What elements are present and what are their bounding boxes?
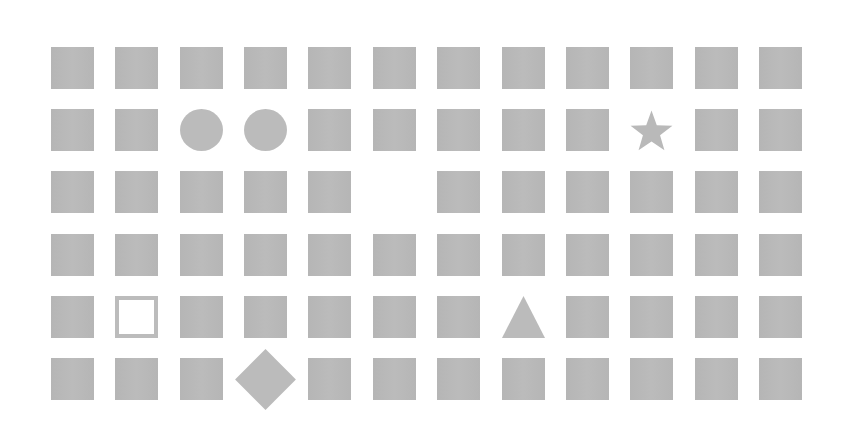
blank-cell <box>373 171 416 213</box>
triangle-shape <box>502 296 545 338</box>
square-shape <box>437 234 480 276</box>
square-shape <box>630 358 673 400</box>
square-shape <box>115 234 158 276</box>
square-shape <box>115 109 158 151</box>
square-shape <box>115 171 158 213</box>
square-shape <box>695 47 738 89</box>
diamond-shape <box>244 358 287 401</box>
square-shape <box>115 358 158 400</box>
square-shape <box>759 358 802 400</box>
square-shape <box>630 234 673 276</box>
square-shape <box>566 171 609 213</box>
square-shape <box>695 109 738 151</box>
square-shape <box>51 358 94 400</box>
square-shape <box>759 109 802 151</box>
square-shape <box>308 47 351 89</box>
star-shape <box>630 109 673 151</box>
square-shape <box>308 296 351 338</box>
square-shape <box>308 171 351 213</box>
square-shape <box>308 234 351 276</box>
square-shape <box>373 234 416 276</box>
square-shape <box>566 234 609 276</box>
square-shape <box>308 358 351 400</box>
square-shape <box>437 296 480 338</box>
square-shape <box>51 47 94 89</box>
diamond-fill <box>235 349 296 410</box>
square-shape <box>437 47 480 89</box>
square-shape <box>502 109 545 151</box>
square-shape <box>180 358 223 400</box>
square-shape <box>373 47 416 89</box>
square-shape <box>437 109 480 151</box>
square-shape <box>566 358 609 400</box>
square-shape <box>695 296 738 338</box>
square-shape <box>51 296 94 338</box>
square-shape <box>115 47 158 89</box>
shape-grid <box>0 0 848 447</box>
square-shape <box>51 109 94 151</box>
square-shape <box>502 171 545 213</box>
square-shape <box>630 171 673 213</box>
square-shape <box>180 234 223 276</box>
square-shape <box>244 296 287 338</box>
square-shape <box>695 358 738 400</box>
square-shape <box>437 171 480 213</box>
square-shape <box>695 234 738 276</box>
square-shape <box>566 296 609 338</box>
square-shape <box>180 296 223 338</box>
square-shape <box>180 47 223 89</box>
square-shape <box>566 109 609 151</box>
square-shape <box>51 234 94 276</box>
square-shape <box>759 171 802 213</box>
square-shape <box>759 296 802 338</box>
square-shape <box>180 171 223 213</box>
square-shape <box>759 47 802 89</box>
square-shape <box>373 296 416 338</box>
square-shape <box>630 47 673 89</box>
square-shape <box>51 171 94 213</box>
hollow-square-shape <box>115 296 158 338</box>
square-shape <box>437 358 480 400</box>
square-shape <box>759 234 802 276</box>
square-shape <box>244 47 287 89</box>
square-shape <box>566 47 609 89</box>
circle-shape <box>180 109 223 151</box>
square-shape <box>630 296 673 338</box>
square-shape <box>373 358 416 400</box>
circle-shape <box>244 109 287 151</box>
square-shape <box>695 171 738 213</box>
square-shape <box>244 234 287 276</box>
square-shape <box>502 47 545 89</box>
square-shape <box>373 109 416 151</box>
square-shape <box>502 234 545 276</box>
square-shape <box>244 171 287 213</box>
square-shape <box>502 358 545 400</box>
square-shape <box>308 109 351 151</box>
